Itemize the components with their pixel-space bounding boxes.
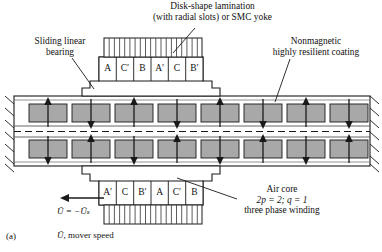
phase-label-top-6: B′ (186, 63, 203, 74)
phase-label-top-3: B (134, 63, 151, 74)
callout-bearing-line2: bearing (17, 47, 103, 58)
callout-coating: Nonmagnetic highly resilient coating (253, 36, 379, 57)
callout-air-core-line2: 2p = 2; q = 1 (214, 195, 350, 206)
mover-speed-legend: Ū, mover speed (57, 230, 114, 240)
callout-air-core: Air core 2p = 2; q = 1 three phase windi… (214, 184, 350, 216)
leader-bearing (72, 58, 94, 89)
mover-speed-arrow (60, 194, 104, 202)
speed-equation: Ū = −Ūₛ (57, 206, 90, 216)
phase-label-top-4: A′ (151, 63, 168, 74)
callout-bearing-line1: Sliding linear (17, 36, 103, 47)
phase-label-bottom-4: A (151, 187, 168, 198)
callout-lamination-line1: Disk-shape lamination (135, 1, 290, 12)
callout-lamination: Disk-shape lamination (with radial slots… (135, 1, 290, 22)
phase-label-bottom-3: B′ (134, 187, 151, 198)
lower-lamination-block (104, 205, 202, 224)
callout-lamination-line2: (with radial slots) or SMC yoke (135, 12, 290, 23)
upper-lamination-block (104, 38, 202, 57)
phase-label-bottom-5: C′ (168, 187, 185, 198)
linear-motor-cross-section-figure: Disk-shape lamination (with radial slots… (0, 0, 382, 252)
left-fixed-support-hatching (5, 96, 14, 172)
phase-label-top-1: A (99, 63, 116, 74)
callout-air-core-line3: three phase winding (214, 205, 350, 216)
mover-speed-text: mover speed (68, 230, 114, 240)
callout-air-core-line1: Air core (214, 184, 350, 195)
callout-sliding-bearing: Sliding linear bearing (17, 36, 103, 57)
phase-label-bottom-1: A′ (99, 187, 116, 198)
phase-label-bottom-6: B (186, 187, 203, 198)
callout-coating-line1: Nonmagnetic (253, 36, 379, 47)
phase-label-top-5: C (168, 63, 185, 74)
phase-label-bottom-2: C (116, 187, 133, 198)
figure-caption: (a) (6, 231, 16, 241)
phase-label-top-2: C′ (116, 63, 133, 74)
right-fixed-support-hatching (370, 96, 379, 172)
mover-speed-symbol: Ū, (57, 230, 66, 240)
callout-coating-line2: highly resilient coating (253, 47, 379, 58)
